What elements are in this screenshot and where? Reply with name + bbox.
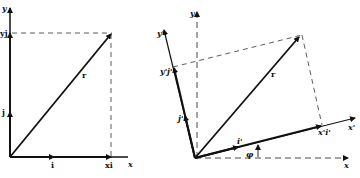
left-x-axis-label: x [128,160,133,168]
left-r-vector [10,34,111,157]
right-i-prime-arrow [195,147,238,158]
left-j-label: j [2,108,5,116]
left-y-axis-label: y [2,4,7,12]
right-y-prime-j-prime-label: y'j' [160,67,172,75]
right-y-prime-axis-label: y' [157,29,164,37]
right-x-prime-i-prime-label: x'i' [318,128,331,136]
right-r-vector [195,37,299,158]
right-dashed-y-projection [173,35,302,67]
right-r-label: r [271,70,275,78]
left-i-label: i [51,161,54,169]
right-dashed-x-projection [302,35,322,125]
left-diagram [10,8,128,157]
coordinate-rotation-figure: y yj j r i xi x y y' y'j' j' r i' φ x'i'… [0,0,360,178]
left-yj-label: yj [0,29,8,37]
right-i-prime-label: i' [237,137,243,145]
angle-phi-label: φ [246,150,253,158]
right-j-prime-label: j' [178,114,183,122]
left-xi-label: xi [105,161,113,169]
right-j-prime-arrow [185,116,195,158]
left-r-label: r [82,71,86,79]
right-y-axis-label: y [190,9,195,17]
right-x-prime-axis-label: x' [348,123,355,131]
diagram-canvas [0,0,360,178]
right-x-axis-label: x [344,161,349,169]
